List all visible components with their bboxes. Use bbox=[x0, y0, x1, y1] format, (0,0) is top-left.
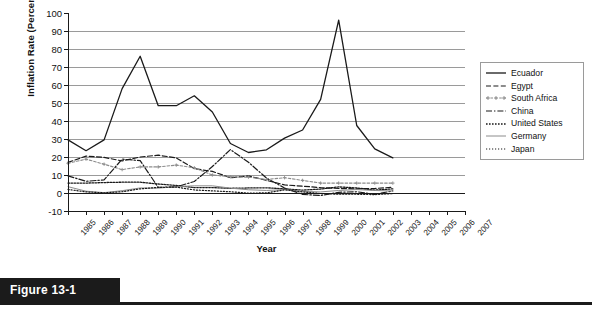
legend-swatch-icon bbox=[485, 68, 507, 78]
series-marker-south-africa bbox=[391, 181, 394, 184]
legend-item-south-africa[interactable]: South Africa bbox=[485, 92, 580, 105]
x-tick-1991: 1991 bbox=[187, 218, 206, 237]
x-tick-mark-1987 bbox=[104, 211, 105, 215]
x-tick-mark-2002 bbox=[375, 211, 376, 215]
x-tick-1987: 1987 bbox=[115, 218, 134, 237]
series-line-ecuador bbox=[68, 20, 393, 158]
legend-item-united-states[interactable]: United States bbox=[485, 117, 580, 130]
legend-label: Ecuador bbox=[511, 69, 543, 78]
x-tick-1997: 1997 bbox=[295, 218, 314, 237]
y-tick-20: 20 bbox=[32, 152, 62, 163]
x-tick-mark-1996 bbox=[267, 211, 268, 215]
legend-label: Germany bbox=[511, 132, 546, 141]
y-tick-40: 40 bbox=[32, 116, 62, 127]
y-tick-80: 80 bbox=[32, 44, 62, 55]
series-marker-south-africa bbox=[301, 179, 304, 182]
series-marker-south-africa bbox=[355, 181, 358, 184]
x-tick-1989: 1989 bbox=[151, 218, 170, 237]
x-tick-mark-1998 bbox=[303, 211, 304, 215]
x-tick-mark-1999 bbox=[321, 211, 322, 215]
legend-swatch-icon bbox=[485, 106, 507, 116]
legend-swatch-icon bbox=[485, 131, 507, 141]
x-tick-mark-1985 bbox=[68, 211, 69, 215]
y-tick-mark-60 bbox=[64, 85, 68, 86]
legend-label: South Africa bbox=[511, 94, 557, 103]
legend-swatch-icon bbox=[485, 144, 507, 154]
x-tick-2006: 2006 bbox=[458, 218, 477, 237]
x-tick-mark-1990 bbox=[158, 211, 159, 215]
x-tick-mark-1989 bbox=[140, 211, 141, 215]
y-tick-60: 60 bbox=[32, 80, 62, 91]
x-tick-1986: 1986 bbox=[97, 218, 116, 237]
series-marker-south-africa bbox=[283, 176, 286, 179]
y-tick-90: 90 bbox=[32, 26, 62, 37]
y-tick-0: 0 bbox=[32, 188, 62, 199]
x-tick-1988: 1988 bbox=[133, 218, 152, 237]
series-marker-south-africa bbox=[157, 165, 160, 168]
x-tick-2007: 2007 bbox=[476, 218, 495, 237]
series-marker-south-africa bbox=[138, 165, 141, 168]
legend-item-ecuador[interactable]: Ecuador bbox=[485, 67, 580, 80]
x-tick-mark-2003 bbox=[393, 211, 394, 215]
x-tick-1995: 1995 bbox=[259, 218, 278, 237]
figure-caption-label: Figure 13-1 bbox=[10, 283, 76, 297]
plot-area bbox=[68, 13, 465, 211]
chart-legend: EcuadorEgyptSouth AfricaChinaUnited Stat… bbox=[480, 62, 584, 160]
legend-swatch-icon bbox=[485, 119, 507, 129]
legend-swatch-icon bbox=[485, 81, 507, 91]
x-tick-mark-1992 bbox=[194, 211, 195, 215]
y-tick-30: 30 bbox=[32, 134, 62, 145]
legend-item-egypt[interactable]: Egypt bbox=[485, 80, 580, 93]
x-tick-mark-1994 bbox=[230, 211, 231, 215]
series-marker-south-africa bbox=[337, 181, 340, 184]
x-tick-mark-2007 bbox=[465, 211, 466, 215]
x-tick-2004: 2004 bbox=[422, 218, 441, 237]
legend-label: Egypt bbox=[511, 82, 533, 91]
x-tick-mark-2005 bbox=[429, 211, 430, 215]
x-tick-mark-2004 bbox=[411, 211, 412, 215]
x-tick-1998: 1998 bbox=[313, 218, 332, 237]
y-tick-mark-50 bbox=[64, 103, 68, 104]
x-tick-mark-2001 bbox=[357, 211, 358, 215]
x-tick-2001: 2001 bbox=[368, 218, 387, 237]
series-marker-south-africa bbox=[120, 168, 123, 171]
x-tick-1999: 1999 bbox=[331, 218, 350, 237]
legend-item-china[interactable]: China bbox=[485, 105, 580, 118]
x-tick-mark-2006 bbox=[447, 211, 448, 215]
x-tick-mark-1988 bbox=[122, 211, 123, 215]
y-tick-mark-30 bbox=[64, 139, 68, 140]
y-tick-10: 10 bbox=[32, 170, 62, 181]
series-marker-south-africa bbox=[84, 157, 87, 160]
y-tick-100: 100 bbox=[32, 8, 62, 19]
series-marker-south-africa bbox=[175, 163, 178, 166]
y-tick-mark-40 bbox=[64, 121, 68, 122]
x-tick-mark-1995 bbox=[248, 211, 249, 215]
x-tick-mark-1997 bbox=[285, 211, 286, 215]
x-tick-2003: 2003 bbox=[404, 218, 423, 237]
series-marker-south-africa bbox=[102, 163, 105, 166]
y-tick-mark-100 bbox=[64, 13, 68, 14]
y-tick-mark-90 bbox=[64, 31, 68, 32]
figure-caption-rule bbox=[0, 302, 592, 305]
figure-13-1: Inflation Rate (Percent) 100908070605040… bbox=[0, 0, 592, 313]
x-tick-2005: 2005 bbox=[440, 218, 459, 237]
legend-item-germany[interactable]: Germany bbox=[485, 130, 580, 143]
legend-label: China bbox=[511, 107, 533, 116]
legend-item-japan[interactable]: Japan bbox=[485, 143, 580, 156]
y-tick-50: 50 bbox=[32, 98, 62, 109]
y-tick-mark-70 bbox=[64, 67, 68, 68]
series-line-south-africa bbox=[68, 159, 393, 183]
x-tick-mark-1986 bbox=[86, 211, 87, 215]
y-tick-mark-80 bbox=[64, 49, 68, 50]
x-tick-1992: 1992 bbox=[205, 218, 224, 237]
y-axis-line bbox=[68, 13, 69, 211]
x-tick-1990: 1990 bbox=[169, 218, 188, 237]
y-tick-mark-0 bbox=[64, 193, 68, 194]
x-tick-1996: 1996 bbox=[277, 218, 296, 237]
x-tick-1993: 1993 bbox=[223, 218, 242, 237]
y-tick--10: -10 bbox=[32, 206, 62, 217]
series-marker-south-africa bbox=[211, 173, 214, 176]
series-line-egypt bbox=[68, 155, 393, 189]
x-tick-2002: 2002 bbox=[386, 218, 405, 237]
x-tick-mark-1991 bbox=[176, 211, 177, 215]
